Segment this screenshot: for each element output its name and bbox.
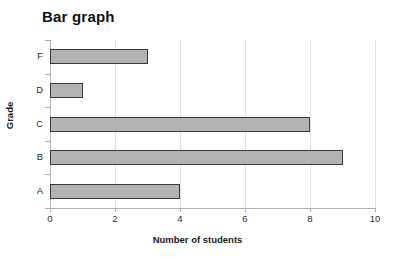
- x-tick-label-8: 8: [307, 213, 312, 224]
- bar-a: [50, 184, 180, 199]
- y-tick-d: [45, 74, 50, 75]
- y-tick-label-wrap-f: F: [26, 50, 43, 62]
- x-tick-6: [245, 208, 246, 212]
- y-tick-label-d: D: [26, 84, 43, 95]
- x-tick-8: [310, 208, 311, 212]
- y-tick-label-wrap-b: B: [26, 151, 43, 163]
- bar-b: [50, 150, 343, 165]
- x-tick-4: [180, 208, 181, 212]
- bar-f: [50, 49, 148, 64]
- bar-d: [50, 83, 83, 98]
- bar-c: [50, 117, 310, 132]
- gridline-10: [375, 40, 376, 208]
- bar-chart: Bar graph FDCBA 0246810 Grade Number of …: [0, 0, 395, 258]
- x-tick-label-6: 6: [242, 213, 247, 224]
- plot-area: [50, 40, 375, 208]
- y-axis-title: Grade: [4, 94, 15, 138]
- y-tick-c: [45, 107, 50, 108]
- y-tick-f: [45, 40, 50, 41]
- chart-title: Bar graph: [42, 8, 115, 25]
- x-tick-10: [375, 208, 376, 212]
- y-tick-label-c: C: [26, 118, 43, 129]
- x-tick-2: [115, 208, 116, 212]
- y-tick-label-wrap-c: C: [26, 118, 43, 130]
- y-tick-a: [45, 174, 50, 175]
- x-tick-label-10: 10: [370, 213, 381, 224]
- y-tick-label-f: F: [26, 50, 43, 61]
- x-axis-line: [50, 208, 376, 209]
- y-tick-b: [45, 141, 50, 142]
- x-axis-title: Number of students: [0, 234, 395, 245]
- x-tick-label-2: 2: [112, 213, 117, 224]
- y-tick-label-b: B: [26, 151, 43, 162]
- y-tick-label-wrap-d: D: [26, 84, 43, 96]
- y-tick-label-a: A: [26, 185, 43, 196]
- x-tick-label-4: 4: [177, 213, 182, 224]
- y-tick-label-wrap-a: A: [26, 185, 43, 197]
- x-tick-label-0: 0: [47, 213, 52, 224]
- x-tick-0: [50, 208, 51, 212]
- gridline-8: [310, 40, 311, 208]
